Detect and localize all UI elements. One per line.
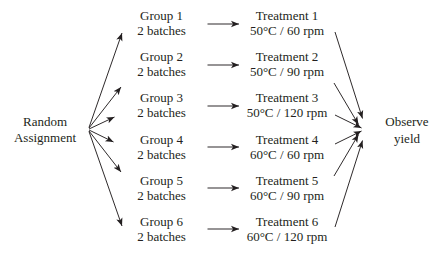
- source-label-line1: Random: [23, 114, 67, 129]
- group-5-sub: 2 batches: [137, 188, 186, 203]
- treatment-4-name: Treatment 4: [256, 132, 319, 147]
- group-1-sub: 2 batches: [137, 23, 186, 38]
- group-1-name: Group 1: [140, 8, 183, 23]
- source-label-line2: Assignment: [14, 130, 77, 145]
- treatment-5-sub: 60°C / 90 rpm: [250, 188, 324, 203]
- converge-arrow-4: [335, 131, 362, 144]
- group-2-name: Group 2: [140, 49, 183, 64]
- treatment-5-name: Treatment 5: [256, 173, 319, 188]
- converge-arrow-6: [335, 141, 363, 228]
- outcome-label-line1: Observe: [385, 114, 429, 129]
- converge-arrow-2: [334, 83, 359, 125]
- group-3-name: Group 3: [140, 90, 183, 105]
- treatment-3-sub: 50°C / 120 rpm: [247, 105, 328, 120]
- group-2-sub: 2 batches: [137, 64, 186, 79]
- treatment-4-sub: 60°C / 60 rpm: [250, 147, 324, 162]
- group-4-sub: 2 batches: [137, 147, 186, 162]
- converge-arrow-5: [334, 135, 359, 177]
- treatment-6-sub: 60°C / 120 rpm: [247, 229, 328, 244]
- group-3-sub: 2 batches: [137, 105, 186, 120]
- diagram-svg: Random Assignment Group 1 2 batches Grou…: [0, 0, 446, 256]
- treatment-1-sub: 50°C / 60 rpm: [250, 23, 324, 38]
- converge-arrow-1: [335, 32, 363, 119]
- outcome-label-line2: yield: [394, 131, 420, 146]
- fan-arrow-to-group-5: [89, 131, 121, 172]
- experiment-design-diagram: Random Assignment Group 1 2 batches Grou…: [0, 0, 446, 256]
- group-6-sub: 2 batches: [137, 229, 186, 244]
- group-4-name: Group 4: [140, 132, 183, 147]
- group-6-name: Group 6: [140, 214, 183, 229]
- fan-arrow-to-group-6: [89, 132, 122, 227]
- converge-arrow-3: [335, 115, 362, 128]
- treatment-2-sub: 50°C / 90 rpm: [250, 64, 324, 79]
- group-5-name: Group 5: [140, 173, 183, 188]
- treatment-1-name: Treatment 1: [256, 8, 319, 23]
- treatment-3-name: Treatment 3: [256, 90, 319, 105]
- treatment-2-name: Treatment 2: [256, 49, 319, 64]
- fan-arrow-to-group-1: [89, 33, 122, 128]
- treatment-6-name: Treatment 6: [256, 214, 319, 229]
